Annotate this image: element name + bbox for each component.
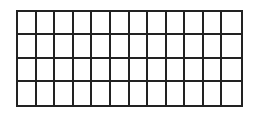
- grid-cell: [74, 82, 93, 105]
- grid-cell: [148, 59, 167, 82]
- grid-cell: [111, 12, 130, 35]
- grid-cell: [130, 12, 149, 35]
- grid-cell: [55, 82, 74, 105]
- grid-cell: [18, 12, 37, 35]
- grid-cell: [74, 59, 93, 82]
- grid-cell: [111, 35, 130, 58]
- grid-cell: [167, 35, 186, 58]
- grid-cell: [92, 35, 111, 58]
- grid-cell: [204, 12, 223, 35]
- grid-cell: [222, 59, 241, 82]
- grid-cell: [92, 59, 111, 82]
- grid-cell: [222, 82, 241, 105]
- grid-cell: [111, 82, 130, 105]
- grid-cell: [111, 59, 130, 82]
- grid-cell: [148, 35, 167, 58]
- grid-cell: [167, 82, 186, 105]
- grid-cell: [148, 12, 167, 35]
- grid-cell: [92, 82, 111, 105]
- grid-cell: [37, 12, 56, 35]
- grid-cell: [185, 35, 204, 58]
- grid-cell: [204, 59, 223, 82]
- grid-cell: [167, 59, 186, 82]
- grid-cell: [185, 82, 204, 105]
- grid-cell: [37, 82, 56, 105]
- grid-diagram: [16, 10, 243, 107]
- grid-cell: [148, 82, 167, 105]
- grid-cell: [204, 35, 223, 58]
- grid-cell: [204, 82, 223, 105]
- grid-cell: [55, 12, 74, 35]
- grid-cell: [37, 59, 56, 82]
- grid-cell: [130, 59, 149, 82]
- grid-cell: [55, 59, 74, 82]
- grid-cell: [222, 35, 241, 58]
- grid-cell: [130, 82, 149, 105]
- grid-cell: [130, 35, 149, 58]
- grid-cell: [74, 12, 93, 35]
- grid-cell: [185, 12, 204, 35]
- grid-cell: [37, 35, 56, 58]
- grid-cell: [222, 12, 241, 35]
- grid-cell: [167, 12, 186, 35]
- grid-cell: [18, 59, 37, 82]
- grid-cell: [55, 35, 74, 58]
- grid-cell: [92, 12, 111, 35]
- grid-cell: [185, 59, 204, 82]
- grid-cell: [74, 35, 93, 58]
- grid-cell: [18, 35, 37, 58]
- grid-cell: [18, 82, 37, 105]
